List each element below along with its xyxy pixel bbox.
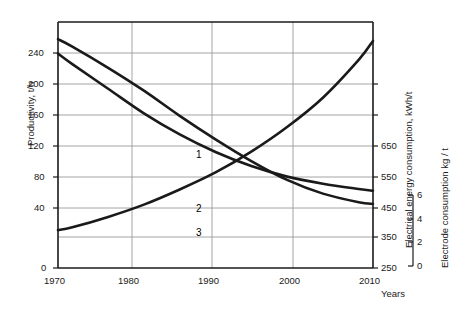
curve-label-2: 2 [196, 203, 202, 214]
x-tick-1970: 1970 [44, 276, 65, 286]
right-electrode-tick-2: 2 [417, 237, 422, 247]
left-tick-40: 40 [34, 203, 45, 213]
x-axis-title: Years [381, 289, 405, 299]
right-electrode-tick-4: 4 [417, 214, 422, 224]
right-energy-axis-title: Electrical energy consumption, kWh/t [404, 92, 414, 248]
right-energy-tick-650: 650 [381, 141, 397, 151]
left-tick-240: 240 [28, 48, 44, 58]
x-tick-2000: 2000 [279, 276, 300, 286]
right-energy-tick-550: 550 [381, 172, 397, 182]
right-electrode-tick-6: 6 [417, 190, 422, 200]
x-tick-2010: 2010 [359, 276, 380, 286]
right-energy-tick-350: 350 [381, 232, 397, 242]
curve-label-3: 3 [196, 227, 202, 238]
left-tick-80: 80 [34, 172, 45, 182]
plot-background [58, 22, 373, 268]
x-tick-1990: 1990 [198, 276, 219, 286]
right-electrode-axis-title: Electrode consumption kg / t [440, 148, 450, 268]
chart-figure: 240 200 160 120 80 40 0 1970 1980 1990 2… [0, 0, 455, 318]
curve-label-1: 1 [196, 149, 202, 160]
x-tick-1980: 1980 [118, 276, 139, 286]
right-electrode-tick-0: 0 [417, 261, 422, 271]
right-energy-tick-250: 250 [381, 263, 397, 273]
right-energy-tick-450: 450 [381, 203, 397, 213]
left-tick-0: 0 [41, 263, 46, 273]
left-axis-title: Productivity, t/h [26, 82, 36, 146]
